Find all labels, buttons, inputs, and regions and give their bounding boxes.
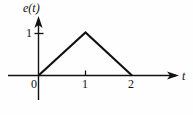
plot-canvas <box>0 0 193 115</box>
waveform-figure: e(t) t 1 0 1 2 <box>0 0 193 115</box>
y-axis-label: e(t) <box>23 2 40 14</box>
x-tick-label-1: 1 <box>82 78 88 90</box>
x-tick-label-0: 0 <box>31 78 37 90</box>
x-axis-label: t <box>182 70 185 82</box>
x-tick-label-2: 2 <box>128 78 134 90</box>
y-tick-label-1: 1 <box>26 27 32 39</box>
signal-waveform <box>39 33 133 76</box>
